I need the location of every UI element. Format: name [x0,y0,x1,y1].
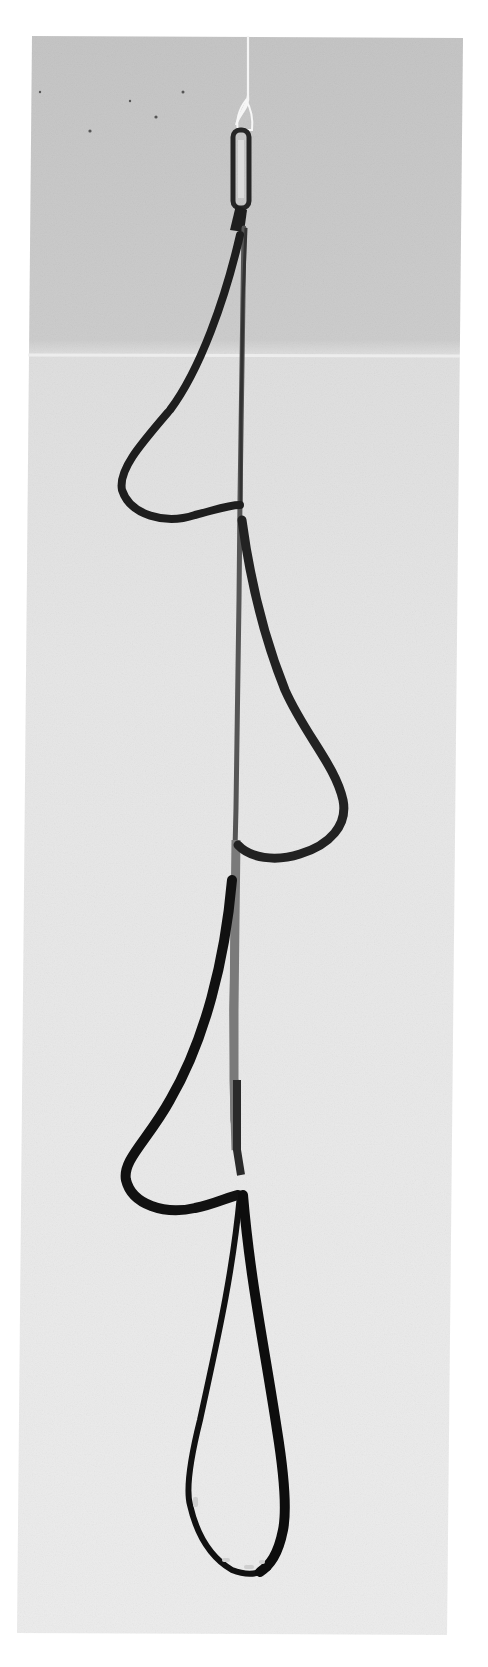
webbing-spine-lower-dark [237,1080,241,1175]
photo-grain [17,36,463,1635]
photo [0,0,488,1667]
